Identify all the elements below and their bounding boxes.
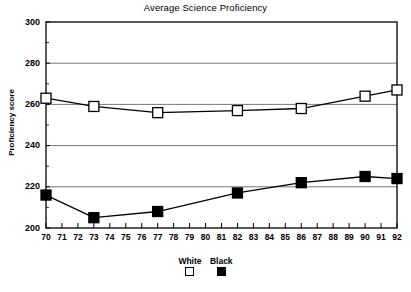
y-tick-280: 280 xyxy=(12,59,40,68)
x-tick-81: 81 xyxy=(214,233,230,242)
x-tick-89: 89 xyxy=(341,233,357,242)
x-tick-73: 73 xyxy=(86,233,102,242)
legend-item-white: White xyxy=(178,257,201,276)
open-square-icon xyxy=(185,267,194,276)
data-point-black-86 xyxy=(296,178,306,188)
data-point-black-77 xyxy=(153,207,163,217)
x-tick-78: 78 xyxy=(166,233,182,242)
data-point-white-70 xyxy=(41,93,51,103)
plot-area xyxy=(0,0,411,292)
data-point-black-82 xyxy=(232,188,242,198)
data-point-white-82 xyxy=(232,106,242,116)
x-tick-77: 77 xyxy=(150,233,166,242)
y-tick-200: 200 xyxy=(12,224,40,233)
x-tick-75: 75 xyxy=(118,233,134,242)
data-point-black-90 xyxy=(360,172,370,182)
x-tick-76: 76 xyxy=(134,233,150,242)
x-tick-70: 70 xyxy=(38,233,54,242)
x-tick-90: 90 xyxy=(357,233,373,242)
y-tick-220: 220 xyxy=(12,182,40,191)
data-point-white-92 xyxy=(392,85,402,95)
y-tick-240: 240 xyxy=(12,141,40,150)
data-point-white-90 xyxy=(360,91,370,101)
data-point-white-77 xyxy=(153,108,163,118)
x-tick-82: 82 xyxy=(229,233,245,242)
legend-item-black: Black xyxy=(210,257,233,276)
x-tick-74: 74 xyxy=(102,233,118,242)
gridlines xyxy=(46,63,397,187)
x-tick-83: 83 xyxy=(245,233,261,242)
filled-square-icon xyxy=(217,267,226,276)
x-tick-86: 86 xyxy=(293,233,309,242)
x-tick-80: 80 xyxy=(198,233,214,242)
y-axis-title: Proficiency score xyxy=(7,78,16,168)
x-tick-71: 71 xyxy=(54,233,70,242)
x-tick-88: 88 xyxy=(325,233,341,242)
data-point-black-70 xyxy=(41,190,51,200)
data-point-black-92 xyxy=(392,174,402,184)
data-point-white-73 xyxy=(89,101,99,111)
data-point-white-86 xyxy=(296,104,306,114)
y-tick-300: 300 xyxy=(12,18,40,27)
y-tick-260: 260 xyxy=(12,100,40,109)
x-tick-87: 87 xyxy=(309,233,325,242)
data-point-black-73 xyxy=(89,213,99,223)
chart-legend: White Black xyxy=(0,256,411,276)
legend-label-black: Black xyxy=(210,257,233,266)
x-tick-91: 91 xyxy=(373,233,389,242)
series-line-black xyxy=(46,177,397,218)
science-proficiency-chart: Average Science Proficiency Proficiency … xyxy=(0,0,411,292)
x-tick-72: 72 xyxy=(70,233,86,242)
chart-title: Average Science Proficiency xyxy=(0,2,411,13)
x-tick-85: 85 xyxy=(277,233,293,242)
x-tick-84: 84 xyxy=(261,233,277,242)
series-markers xyxy=(41,85,402,223)
legend-label-white: White xyxy=(178,257,201,266)
x-tick-79: 79 xyxy=(182,233,198,242)
x-tick-92: 92 xyxy=(389,233,405,242)
